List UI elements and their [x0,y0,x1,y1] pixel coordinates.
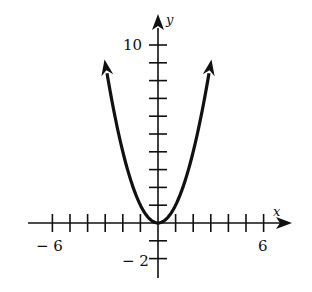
y-axis [149,14,167,278]
y-max-label: 10 [123,36,142,54]
x-axis-label: x [273,204,281,219]
y-axis-label: y [165,12,174,27]
x-max-label: 6 [258,237,268,255]
x-min-label: − 6 [36,237,63,255]
y-min-label: − 2 [122,252,149,270]
parabola-chart: y x 10 − 2 − 6 6 [0,0,312,292]
y-axis-arrow-icon [152,14,164,30]
